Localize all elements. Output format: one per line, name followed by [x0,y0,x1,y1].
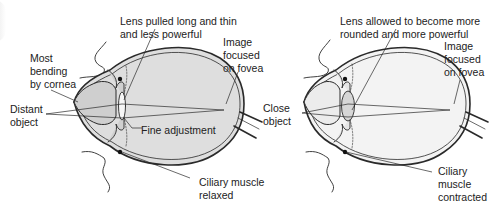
label-cornea-bending: Most bending by cornea [30,52,76,91]
lower-eyelid [306,151,334,192]
upper-eyelid [304,40,330,78]
label-lens-rounded: Lens allowed to become more rounded and … [340,15,480,41]
label-ciliary-relaxed: Ciliary muscle relaxed [199,176,264,202]
label-image-fovea-right: Image focused on fovea [444,40,484,79]
label-lens-thin: Lens pulled long and thin and less power… [120,15,237,41]
ciliary-muscle-dot-upper [118,77,122,81]
lower-eyelid [82,151,110,192]
label-image-fovea-left: Image focused on fovea [223,36,263,75]
label-ciliary-contracted: Ciliary muscle contracted [438,165,487,204]
upper-eyelid [80,42,106,78]
lens [119,92,126,120]
label-distant-object: Distant object [10,103,43,129]
ciliary-muscle-dot-lower [118,150,122,154]
label-close-object: Close object [263,102,291,128]
ciliary-muscle-dot-upper [343,77,347,81]
label-fine-adjustment: Fine adjustment [141,124,216,137]
